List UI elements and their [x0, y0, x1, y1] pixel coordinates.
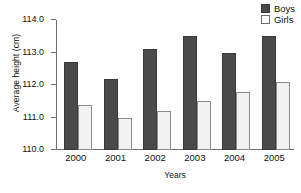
- bar-group: [255, 20, 295, 150]
- bar-girls-2005: [276, 82, 290, 150]
- x-axis-tick-label: 2004: [215, 152, 255, 163]
- bar-group: [97, 20, 137, 150]
- y-axis-tick: 112.0: [51, 84, 56, 85]
- chart-legend: BoysGirls: [261, 4, 295, 24]
- plot-area: 110.0111.0112.0113.0114.0: [56, 20, 294, 150]
- y-axis-tick: 111.0: [51, 117, 56, 118]
- bar-girls-2002: [157, 111, 171, 150]
- bar-chart: Average height (cm) 110.0111.0112.0113.0…: [0, 0, 301, 193]
- bar-girls-2000: [78, 105, 92, 151]
- y-axis-title: Average height (cm): [11, 13, 21, 133]
- legend-label: Boys: [274, 4, 295, 14]
- legend-entry-girls[interactable]: Girls: [261, 15, 295, 25]
- legend-swatch-icon: [261, 4, 270, 13]
- bar-groups: [57, 20, 294, 150]
- legend-label: Girls: [274, 15, 294, 25]
- y-axis-tick: 110.0: [51, 149, 56, 150]
- bar-boys-2000: [64, 62, 78, 150]
- bar-group: [57, 20, 97, 150]
- x-axis-tick-label: 2000: [56, 152, 96, 163]
- bar-girls-2001: [118, 118, 132, 151]
- bar-boys-2005: [262, 36, 276, 150]
- bar-boys-2001: [104, 79, 118, 151]
- y-axis-tick-label: 113.0: [22, 47, 44, 57]
- bar-group: [176, 20, 216, 150]
- bar-boys-2003: [183, 36, 197, 150]
- y-axis-tick-label: 110.0: [22, 144, 44, 154]
- x-axis-tick-labels: 200020012002200320042005: [56, 152, 294, 163]
- x-axis-tick-label: 2002: [135, 152, 175, 163]
- y-axis-tick: 113.0: [51, 52, 56, 53]
- bar-group: [136, 20, 176, 150]
- bar-boys-2004: [222, 53, 236, 151]
- y-axis-tick-label: 112.0: [22, 79, 44, 89]
- legend-swatch-icon: [261, 15, 270, 24]
- x-axis-tick-label: 2003: [175, 152, 215, 163]
- legend-entry-boys[interactable]: Boys: [261, 4, 295, 14]
- bar-boys-2002: [143, 49, 157, 150]
- bar-girls-2003: [197, 101, 211, 150]
- x-axis-title: Years: [56, 170, 294, 180]
- bar-group: [215, 20, 255, 150]
- y-axis-tick: 114.0: [51, 19, 56, 20]
- y-axis-tick-label: 114.0: [22, 14, 44, 24]
- bar-girls-2004: [236, 92, 250, 151]
- y-axis-tick-label: 111.0: [23, 112, 44, 122]
- x-axis-tick-label: 2001: [96, 152, 136, 163]
- x-axis-tick-label: 2005: [254, 152, 294, 163]
